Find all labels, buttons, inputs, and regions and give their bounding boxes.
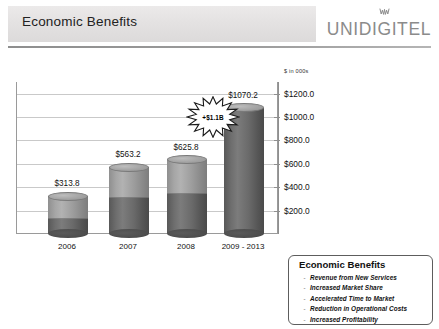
- y-axis-tick: [274, 164, 280, 165]
- starburst-callout: +$1.1B: [186, 96, 240, 138]
- bullet-dash-icon: -: [299, 294, 310, 304]
- y-axis-tick: [274, 140, 280, 141]
- bar-segment-upper: [167, 160, 207, 195]
- page-title: Economic Benefits: [22, 14, 137, 29]
- bar-value-label: $625.8: [173, 143, 198, 152]
- y-axis-label: $1200.0: [284, 89, 314, 99]
- unidigitel-logo: UNIDIGITEL: [325, 8, 431, 42]
- y-axis-label: $800.0: [284, 135, 310, 145]
- bar-segment-divider: [48, 218, 88, 219]
- callout-bullet-list: -Revenue from New Services-Increased Mar…: [299, 273, 431, 325]
- bullet-dash-icon: -: [299, 304, 310, 314]
- y-axis-label: $200.0: [284, 206, 310, 216]
- callout-list-item: -Increased Market Share: [299, 283, 431, 293]
- y-axis-tick: [274, 117, 280, 118]
- logo-wordmark: UNIDIGITEL: [327, 19, 431, 40]
- bar-2006[interactable]: [48, 196, 88, 233]
- cylinder-base: [109, 229, 149, 238]
- y-axis-label: $400.0: [284, 182, 310, 192]
- bullet-dash-icon: -: [299, 315, 310, 325]
- callout-item-label: Reduction in Operational Costs: [310, 304, 407, 314]
- callout-item-label: Revenue from New Services: [310, 273, 397, 283]
- x-axis-label: 2006: [58, 242, 76, 251]
- x-axis-label: 2007: [119, 242, 137, 251]
- cylinder-base: [48, 229, 88, 238]
- callout-list-item: -Increased Profitability: [299, 315, 431, 325]
- bar-segment-divider: [167, 193, 207, 194]
- bar-segment-divider: [109, 197, 149, 198]
- bar-value-label: $313.8: [54, 179, 79, 188]
- cylinder-top: [48, 192, 88, 201]
- x-axis-label: 2009 - 2013: [222, 242, 265, 251]
- bar-segment-lower: [167, 194, 207, 233]
- y-axis-label: $1000.0: [284, 112, 314, 122]
- slide: Economic Benefits UNIDIGITEL $ in 000s E…: [0, 0, 439, 329]
- callout-list-item: -Revenue from New Services: [299, 273, 431, 283]
- y-axis-tick: [274, 211, 280, 212]
- bullet-dash-icon: -: [299, 283, 310, 293]
- economic-benefits-callout: Economic Benefits -Revenue from New Serv…: [288, 255, 433, 325]
- bar-segment-upper: [109, 167, 149, 198]
- callout-item-label: Increased Profitability: [310, 315, 378, 325]
- bar-2007[interactable]: [109, 167, 149, 233]
- bullet-dash-icon: -: [299, 273, 310, 283]
- cylinder-top: [109, 163, 149, 172]
- cylinder-base: [167, 229, 207, 238]
- bar-segment-lower: [109, 198, 149, 233]
- callout-item-label: Accelerated Time to Market: [310, 294, 394, 304]
- slide-header: Economic Benefits UNIDIGITEL: [0, 0, 439, 50]
- y-axis-tick: [274, 187, 280, 188]
- y-axis-unit-label: $ in 000s: [284, 68, 309, 74]
- x-axis-label: 2008: [177, 242, 195, 251]
- y-axis-tick: [274, 94, 280, 95]
- crown-icon: [379, 8, 390, 17]
- cylinder-base: [224, 229, 264, 238]
- starburst-label: +$1.1B: [186, 96, 240, 138]
- callout-item-label: Increased Market Share: [310, 283, 383, 293]
- y-axis-label: $600.0: [284, 159, 310, 169]
- header-divider: [8, 46, 431, 48]
- callout-list-item: -Reduction in Operational Costs: [299, 304, 431, 314]
- callout-title: Economic Benefits: [299, 259, 385, 270]
- callout-list-item: -Accelerated Time to Market: [299, 294, 431, 304]
- bar-value-label: $563.2: [115, 150, 140, 159]
- bar-2008[interactable]: [167, 160, 207, 233]
